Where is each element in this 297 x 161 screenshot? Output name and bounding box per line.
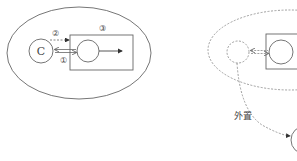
marker-1: ①: [60, 56, 67, 65]
left-panel: C ② ① ③: [7, 7, 151, 99]
diagram-canvas: C ② ① ③ 外置: [0, 0, 297, 161]
right-panel: 外置: [208, 10, 297, 154]
outer-ellipse: [7, 7, 151, 99]
dashed-node: [227, 41, 249, 63]
inner-node: [77, 40, 99, 62]
external-link-curve: [237, 63, 290, 136]
node-c-label: C: [37, 45, 45, 58]
external-node: [291, 126, 297, 154]
external-label: 外置: [234, 110, 252, 121]
marker-2: ②: [52, 29, 59, 38]
marker-3: ③: [99, 24, 106, 33]
container-box: [70, 35, 133, 70]
